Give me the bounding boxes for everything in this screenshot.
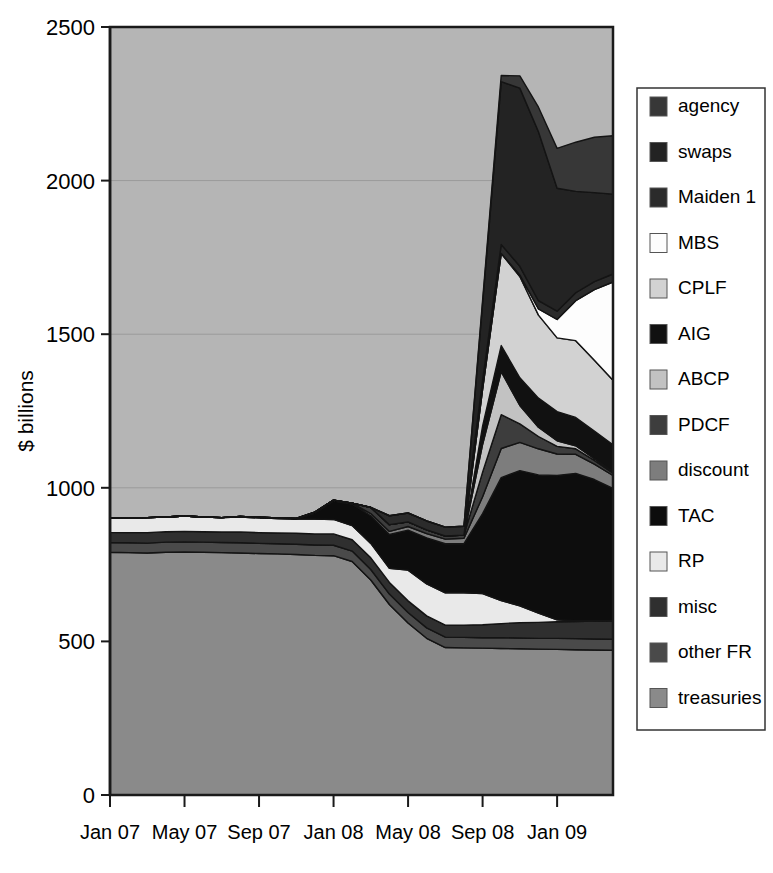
legend-swatch-discount [650, 461, 667, 480]
legend-swatch-maiden-1 [650, 188, 667, 207]
legend-swatch-swaps [650, 143, 667, 162]
legend-box [637, 88, 765, 730]
legend-swatch-aig [650, 325, 667, 344]
legend: agencyswapsMaiden 1MBSCPLFAIGABCPPDCFdis… [637, 88, 765, 730]
x-tick-label: Jan 08 [304, 821, 364, 843]
legend-label-agency: agency [678, 95, 740, 116]
y-tick-label: 1500 [46, 322, 95, 347]
stacked-area-chart-figure: 05001000150020002500 Jan 07May 07Sep 07J… [0, 0, 773, 873]
legend-label-cplf: CPLF [678, 277, 727, 298]
legend-swatch-other-fr [650, 643, 667, 662]
y-tick-label: 1000 [46, 476, 95, 501]
y-tick-label: 0 [83, 783, 95, 808]
legend-label-misc: misc [678, 596, 717, 617]
legend-swatch-misc [650, 598, 667, 617]
legend-label-aig: AIG [678, 323, 711, 344]
x-tick-label: Sep 07 [227, 821, 290, 843]
legend-label-discount: discount [678, 459, 749, 480]
y-axis-label: $ billions [14, 370, 37, 452]
legend-swatch-mbs [650, 234, 667, 253]
legend-swatch-abcp [650, 370, 667, 389]
x-tick-label: May 07 [152, 821, 218, 843]
legend-swatch-rp [650, 552, 667, 571]
legend-swatch-pdcf [650, 416, 667, 435]
y-tick-label: 2500 [46, 15, 95, 40]
legend-label-other-fr: other FR [678, 641, 752, 662]
legend-swatch-cplf [650, 279, 667, 298]
legend-label-abcp: ABCP [678, 368, 730, 389]
legend-swatch-agency [650, 97, 667, 116]
y-tick-label: 2000 [46, 169, 95, 194]
y-tick-label: 500 [58, 629, 95, 654]
legend-label-tac: TAC [678, 505, 715, 526]
x-tick-label: Jan 09 [527, 821, 587, 843]
legend-swatch-tac [650, 507, 667, 526]
legend-label-rp: RP [678, 550, 704, 571]
x-tick-label: Sep 08 [451, 821, 514, 843]
x-tick-label: Jan 07 [80, 821, 140, 843]
legend-label-pdcf: PDCF [678, 414, 730, 435]
legend-label-mbs: MBS [678, 232, 719, 253]
legend-label-maiden-1: Maiden 1 [678, 186, 756, 207]
x-tick-label: May 08 [375, 821, 441, 843]
legend-label-swaps: swaps [678, 141, 732, 162]
legend-swatch-treasuries [650, 689, 667, 708]
legend-label-treasuries: treasuries [678, 687, 761, 708]
